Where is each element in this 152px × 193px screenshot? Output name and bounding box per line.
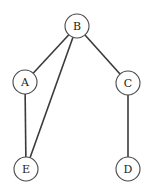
edge-b-c [85,35,120,74]
edge-b-e [30,37,73,157]
node-layer: BACED [13,14,140,181]
edge-a-e [25,94,26,157]
node-e: E [14,157,38,181]
edge-layer [25,35,128,158]
node-b: B [65,14,89,38]
node-label: D [124,163,133,176]
node-label: B [73,20,81,33]
node-d: D [116,157,140,181]
edge-b-a [33,35,69,73]
node-label: A [20,76,30,89]
node-a: A [13,70,37,94]
node-c: C [116,71,140,95]
node-label: E [22,163,30,176]
node-label: C [124,77,132,90]
graph-diagram: BACED [0,0,152,193]
